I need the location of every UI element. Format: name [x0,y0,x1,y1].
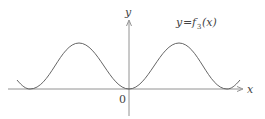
function-graph: y x 0 y = f 3 (x) [0,0,265,119]
y-axis-label: y [124,6,132,19]
x-axis-label: x [247,83,254,96]
svg-text:y: y [175,16,183,29]
svg-text:3: 3 [197,23,201,31]
svg-text:(x): (x) [202,16,217,29]
svg-text:=: = [183,16,192,29]
function-label: y = f 3 (x) [175,16,217,31]
function-curve [17,43,240,89]
origin-label: 0 [119,93,126,106]
